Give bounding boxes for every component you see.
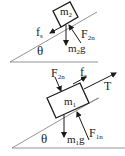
- top-normal-arrow: [69, 25, 81, 43]
- label-m2: m2: [60, 6, 72, 17]
- rope-line: [89, 98, 99, 103]
- label-top-fs: fs: [36, 26, 43, 38]
- free-body-diagrams: m2 fs F2n m2g θ F2n fs T m1 θ m1g F1n: [0, 0, 125, 156]
- label-m1g: m1g: [67, 134, 85, 145]
- label-f1n: F1n: [89, 127, 103, 139]
- label-bottom-theta: θ: [41, 132, 47, 145]
- label-bottom-f2n: F2n: [51, 67, 65, 79]
- label-top-f2n: F2n: [81, 28, 95, 40]
- label-tension: T: [104, 80, 111, 92]
- label-bottom-fs: fs: [80, 66, 87, 78]
- label-top-theta: θ: [37, 44, 43, 57]
- label-m2g: m2g: [68, 43, 86, 54]
- top-friction-arrow: [50, 27, 61, 33]
- label-m1: m1: [64, 96, 76, 107]
